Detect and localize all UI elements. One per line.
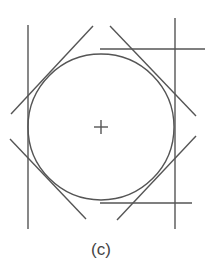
bottom-right-diagonal-line — [117, 136, 196, 220]
center-cross-icon — [94, 120, 108, 134]
tangent-lines-diagram — [0, 0, 220, 277]
tangent-lines — [10, 18, 205, 229]
top-left-diagonal-line — [11, 26, 93, 114]
top-right-diagonal-line — [110, 26, 196, 116]
figure-caption: (c) — [0, 240, 202, 260]
bottom-left-diagonal-line — [10, 139, 86, 219]
